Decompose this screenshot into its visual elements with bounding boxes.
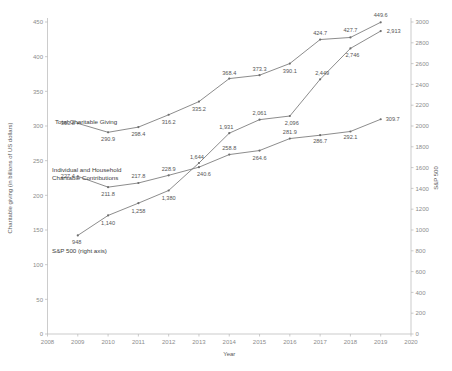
right-axis-tick-label: 1000 [416,227,430,233]
data-point-label: 290.9 [101,136,115,142]
right-axis-tick-label: 1800 [416,144,430,150]
data-point-marker [137,202,139,204]
data-point-label: 286.7 [313,138,327,144]
data-point-marker [77,234,79,236]
data-point-label: 1,380 [162,195,176,201]
data-point-marker [258,74,260,76]
data-point-marker [319,134,321,136]
x-axis-tick-label: 2013 [192,339,206,345]
x-axis-tick-label: 2009 [71,339,85,345]
left-axis-tick-label: 300 [33,123,44,129]
right-axis-tick-label: 200 [416,310,427,316]
right-axis-tick-label: 800 [416,248,427,254]
data-point-marker [319,38,321,40]
x-axis-title: Year [223,351,235,357]
left-axis-tick-label: 350 [33,89,44,95]
data-point-label: 298.4 [131,131,145,137]
data-point-label: 2,913 [387,28,401,34]
right-axis-tick-label: 2800 [416,40,430,46]
chart-background [0,0,452,371]
data-point-label: 2,061 [253,110,267,116]
y-axis-title: Charitable giving (in billions of US dol… [7,122,13,233]
data-point-label: 281.9 [283,129,297,135]
x-axis-tick-label: 2016 [283,339,297,345]
data-point-label: 449.6 [374,12,388,18]
data-point-marker [107,214,109,216]
data-point-label: 368.4 [222,70,236,76]
right-axis-tick-label: 3000 [416,19,430,25]
data-point-marker [137,126,139,128]
data-point-label: 335.2 [192,106,206,112]
data-point-label: 948 [72,239,81,245]
data-point-marker [228,77,230,79]
right-axis-tick-label: 2000 [416,123,430,129]
data-point-marker [349,36,351,38]
right-axis-tick-label: 400 [416,290,427,296]
data-point-marker [380,30,382,32]
data-point-marker [380,21,382,23]
data-point-label: 316.2 [162,119,176,125]
data-point-marker [228,132,230,134]
data-point-marker [198,166,200,168]
data-point-label: 390.1 [283,68,297,74]
data-point-label: 228.9 [162,166,176,172]
data-point-label: 427.7 [343,27,357,33]
data-point-label: 292.1 [343,134,357,140]
data-point-label: 424.7 [313,30,327,36]
right-axis-tick-label: 1400 [416,186,430,192]
data-point-label: 373.3 [253,66,267,72]
data-point-label: 2,096 [285,120,299,126]
x-axis-tick-label: 2019 [374,339,388,345]
right-axis-tick-label: 2200 [416,102,430,108]
right-axis-tick-label: 1200 [416,206,430,212]
data-point-marker [107,186,109,188]
data-point-label: 240.6 [197,171,211,177]
x-axis-tick-label: 2017 [313,339,327,345]
data-point-marker [258,119,260,121]
series-annotation-label: Total Charitable Giving [55,118,118,125]
data-point-marker [107,131,109,133]
data-point-label: 264.6 [253,155,267,161]
left-axis-tick-label: 100 [33,262,44,268]
line-chart: 050100150200250300350400450 020040060080… [0,0,452,371]
data-point-label: 258.8 [222,145,236,151]
left-axis-tick-label: 450 [33,19,44,25]
data-point-marker [289,115,291,117]
left-axis-tick-label: 250 [33,158,44,164]
x-axis-tick-label: 2018 [344,339,358,345]
series-annotation-label: Individual and Household [52,166,122,173]
data-point-marker [137,182,139,184]
x-axis-tick-label: 2012 [162,339,176,345]
data-point-marker [380,118,382,120]
data-point-marker [289,137,291,139]
x-axis-tick-label: 2011 [132,339,146,345]
right-axis-tick-label: 1600 [416,165,430,171]
x-axis-tick-label: 2020 [404,339,418,345]
x-axis-tick-label: 2008 [41,339,55,345]
data-point-label: 2,449 [315,70,329,76]
data-point-label: 309.7 [386,116,400,122]
data-point-label: 211.8 [101,191,115,197]
data-point-label: 2,746 [345,52,359,58]
data-point-marker [289,62,291,64]
series-annotation-label: Charitable Contributions [52,174,118,181]
data-point-label: 1,931 [219,124,233,130]
x-axis-tick-label: 2015 [253,339,267,345]
x-axis-tick-label: 2010 [101,339,115,345]
series-annotation-label: S&P 500 (right axis) [52,247,107,254]
data-point-marker [319,78,321,80]
data-point-marker [168,174,170,176]
data-point-label: 1,140 [101,220,115,226]
left-axis-tick-label: 150 [33,227,44,233]
data-point-marker [228,153,230,155]
data-point-marker [258,149,260,151]
right-axis-tick-label: 600 [416,269,427,275]
left-axis-tick-label: 50 [36,297,43,303]
right-axis-tick-label: 2400 [416,82,430,88]
data-point-label: 1,258 [131,208,145,214]
data-point-marker [198,162,200,164]
data-point-marker [198,100,200,102]
right-axis-tick-label: 2600 [416,61,430,67]
data-point-label: 217.8 [131,173,145,179]
chart-container: 050100150200250300350400450 020040060080… [0,0,452,371]
